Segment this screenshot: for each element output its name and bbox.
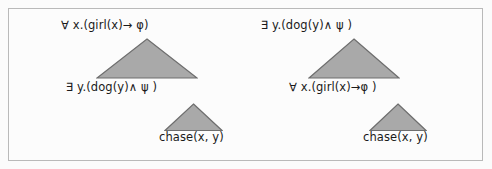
triangle-shape-large xyxy=(96,38,198,79)
tree-node-label-leaf: chase(x, y) xyxy=(159,131,224,144)
derivation-figure: ∀ x.(girl(x)→ φ) ∃ y.(dog(y)∧ ψ ) chase(… xyxy=(0,0,492,169)
triangle-shape-small xyxy=(369,103,427,132)
tree-node-label-top: ∀ x.(girl(x)→ φ) xyxy=(61,19,149,32)
tree-node-triangle-leaf xyxy=(369,103,427,132)
tree-node-triangle-top xyxy=(308,38,400,79)
tree-node-label-mid: ∀ x.(girl(x)→φ ) xyxy=(289,81,377,94)
triangle-shape-small xyxy=(164,103,223,132)
tree-node-label-mid: ∃ y.(dog(y)∧ ψ ) xyxy=(66,81,157,94)
derivation-tree-right: ∃ y.(dog(y)∧ ψ ) ∀ x.(girl(x)→φ ) chase(… xyxy=(246,0,492,169)
derivation-tree-left: ∀ x.(girl(x)→ φ) ∃ y.(dog(y)∧ ψ ) chase(… xyxy=(0,0,246,169)
tree-node-label-leaf: chase(x, y) xyxy=(363,131,428,144)
tree-node-triangle-top xyxy=(96,38,198,79)
tree-node-triangle-leaf xyxy=(164,103,223,132)
tree-node-label-top: ∃ y.(dog(y)∧ ψ ) xyxy=(261,19,352,32)
triangle-shape-large xyxy=(308,38,400,79)
